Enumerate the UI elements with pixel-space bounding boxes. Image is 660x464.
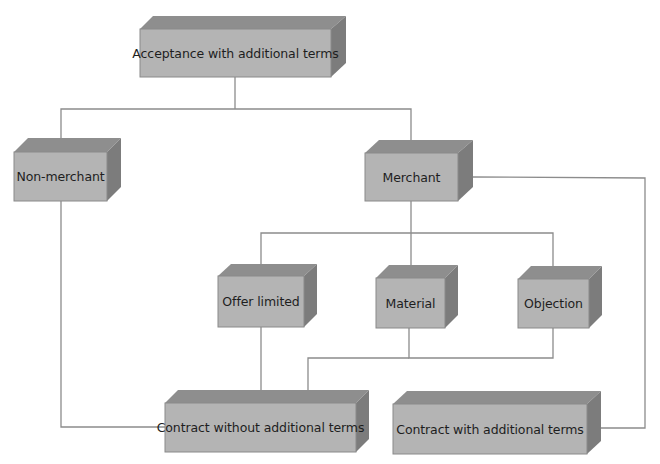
edge-bus-children	[261, 233, 553, 266]
node-label: Non-merchant	[14, 152, 107, 201]
node-label: Merchant	[365, 153, 458, 201]
edge-bus-contract-without	[308, 358, 409, 390]
node-label: Acceptance with additional terms	[140, 29, 331, 77]
node-label: Objection	[518, 279, 589, 328]
node-label: Offer limited	[218, 276, 304, 327]
node-contract-with: Contract with additional terms	[393, 391, 601, 454]
node-label: Contract with additional terms	[393, 404, 587, 454]
node-acceptance: Acceptance with additional terms	[140, 16, 346, 77]
node-non-merchant: Non-merchant	[14, 138, 121, 201]
edge-material-objection-bus	[409, 327, 553, 358]
node-label: Material	[376, 278, 445, 328]
node-label: Contract without additional terms	[165, 403, 356, 452]
node-offer-limited: Offer limited	[218, 264, 317, 327]
node-merchant: Merchant	[365, 140, 473, 201]
node-material: Material	[376, 265, 458, 328]
node-objection: Objection	[518, 266, 602, 328]
edge-non-merchant-contract-without	[61, 200, 165, 427]
edge-bus-non-merchant	[61, 109, 411, 140]
node-contract-without: Contract without additional terms	[165, 390, 369, 452]
